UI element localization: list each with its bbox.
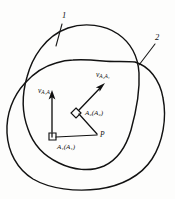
point-label-p: P: [100, 131, 105, 139]
baseline-origin-to-p: [56, 135, 97, 137]
outer-closed-curve: [7, 60, 165, 191]
node-label-center: A₂(A₂): [85, 110, 103, 117]
vector-arrow-diagonal-shaft: [79, 87, 101, 110]
leader-line-curve-2: [139, 44, 155, 65]
curve-label-1: 1: [62, 11, 66, 20]
vector-label-diagonal: vA₂A₁: [96, 71, 110, 80]
curve-label-2: 2: [155, 33, 159, 42]
vector-label-left-subscript: A₁A₁: [41, 89, 51, 95]
figure-container: 1 2 vA₁A₁ vA₂A₁ A₂(A₂) A₁(A₁) P: [0, 0, 175, 199]
vector-label-left: vA₁A₁: [38, 87, 52, 96]
diagram-canvas: [0, 0, 175, 199]
node-label-origin: A₁(A₁): [57, 144, 75, 151]
inner-closed-curve: [23, 25, 139, 170]
leader-line-curve-1: [56, 24, 62, 46]
line-p-to-center-node: [79, 114, 97, 134]
vector-label-diagonal-subscript: A₂A₁: [99, 73, 109, 79]
